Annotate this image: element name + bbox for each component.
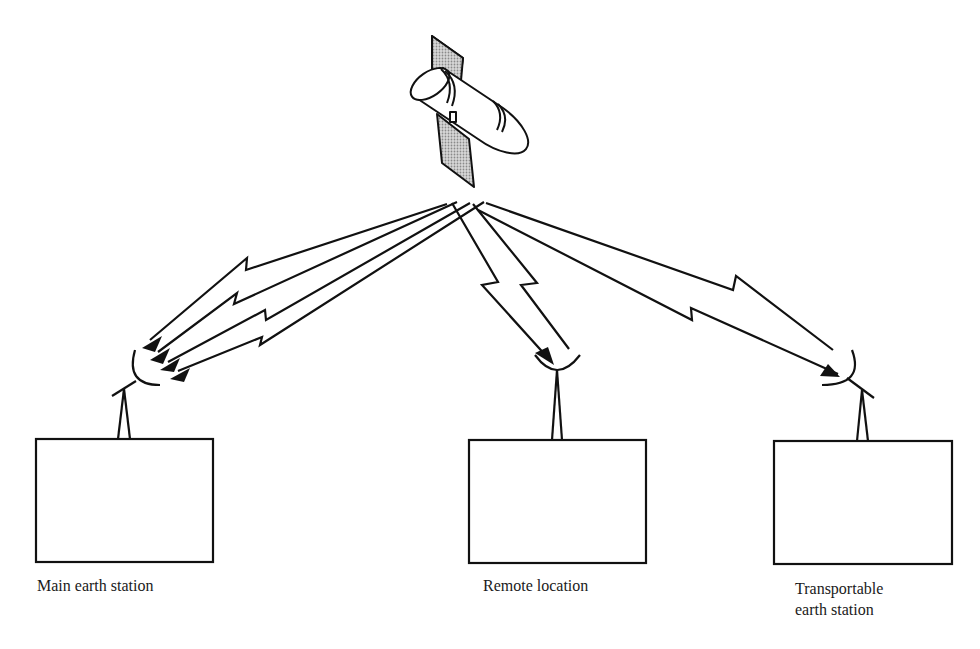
label-transportable-earth-station: Transportable earth station — [795, 578, 883, 620]
transportable-earth-station — [774, 350, 952, 564]
beams-transportable-station — [478, 203, 838, 374]
arrowhead-transportable — [820, 364, 840, 377]
dish-antenna-icon — [133, 350, 160, 385]
station-box-remote — [469, 440, 646, 563]
arrowheads-main-station — [142, 336, 190, 382]
label-main-earth-station: Main earth station — [37, 575, 153, 596]
satellite-icon — [405, 36, 528, 187]
station-box-main — [36, 439, 213, 562]
beams-main-station — [150, 202, 484, 371]
label-remote-location: Remote location — [483, 575, 588, 596]
main-earth-station — [36, 350, 213, 562]
remote-location-station — [469, 355, 646, 563]
arrowhead-remote — [535, 347, 554, 365]
satellite-network-diagram — [0, 0, 980, 649]
station-box-transportable — [774, 441, 952, 564]
